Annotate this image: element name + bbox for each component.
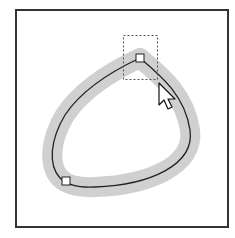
anchor-point-top[interactable]: [136, 54, 144, 62]
anchor-point-bottom-left[interactable]: [62, 177, 70, 185]
illustration-canvas: [0, 0, 235, 238]
